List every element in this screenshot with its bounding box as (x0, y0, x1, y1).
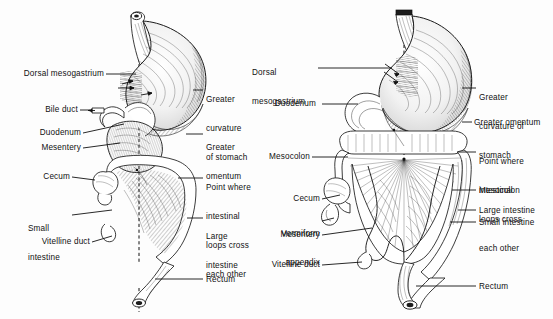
label-dorsal-mesogastrium-right-line1: Dorsal (252, 68, 322, 78)
label-dorsal-mesogastrium-right: Dorsal mesogastrium (252, 49, 322, 126)
label-small-intestine-left-line1: Small (28, 224, 88, 234)
label-greater-omentum-right: Greater omentum (474, 118, 553, 128)
label-cecum-left: Cecum (0, 172, 70, 182)
label-vermiform-appendix: Vermiform appendix (248, 210, 320, 287)
label-small-intestine-left-line2: intestine (28, 253, 88, 263)
right-transverse-colon (340, 131, 467, 154)
mesocolon-root-point (402, 157, 405, 160)
label-vitelline-duct-right: Vitelline duct (248, 260, 320, 270)
label-mesentery-left: Mesentery (0, 143, 81, 153)
label-point-where-right-line4: each other (479, 244, 545, 254)
anatomical-figure: Dorsal mesogastrium Bile duct Duodenum M… (0, 0, 553, 319)
label-point-where-right-line1: Point where (479, 157, 545, 167)
label-point-where-left-line1: Point where (206, 183, 268, 193)
label-duodenum-left: Duodenum (0, 128, 81, 138)
label-cecum-right: Cecum (248, 194, 320, 204)
label-dorsal-mesogastrium-left: Dorsal mesogastrium (0, 69, 104, 79)
label-mesocolon-right: Mesocolon (248, 152, 310, 162)
label-small-intestine-right: Small intestine (479, 218, 553, 228)
label-rectum-right: Rectum (479, 282, 531, 292)
label-mesentery-right: Mesentery (248, 230, 320, 240)
label-mesocolon-right-2: Mesocolon (479, 186, 549, 196)
label-large-intestine-right: Large intestine (479, 206, 553, 216)
label-vitelline-duct-left: Vitelline duct (0, 237, 90, 247)
label-bile-duct: Bile duct (0, 105, 78, 115)
label-greater-curvature-right-line1: Greater (479, 93, 551, 103)
label-duodenum-right: Duodenum (248, 99, 316, 109)
